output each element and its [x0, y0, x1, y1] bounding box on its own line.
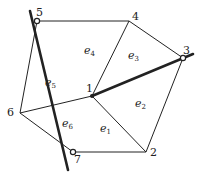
node-label-1: 1: [86, 82, 93, 95]
node-label-4: 4: [132, 10, 139, 23]
node-marker-5: [34, 18, 39, 23]
element-label-e6: e6: [62, 117, 74, 131]
thick-line-2: [92, 54, 193, 96]
edge-4-3: [129, 21, 183, 58]
edge-1-6: [20, 96, 92, 113]
node-label-7: 7: [74, 153, 81, 166]
node-label-6: 6: [7, 106, 14, 119]
node-label-5: 5: [36, 6, 43, 19]
element-label-e3: e3: [128, 49, 139, 63]
element-label-e5: e5: [45, 76, 56, 90]
node-label-3: 3: [183, 44, 190, 57]
thick-line-1: [30, 11, 68, 170]
node-label-2: 2: [150, 146, 157, 159]
thick-lines: [30, 11, 193, 170]
element-label-e4: e4: [84, 44, 96, 58]
edge-1-4: [92, 21, 129, 96]
element-label-e2: e2: [135, 97, 146, 111]
mesh-diagram: 1234567 e1e2e3e4e5e6: [0, 0, 203, 179]
element-label-e1: e1: [100, 122, 111, 136]
